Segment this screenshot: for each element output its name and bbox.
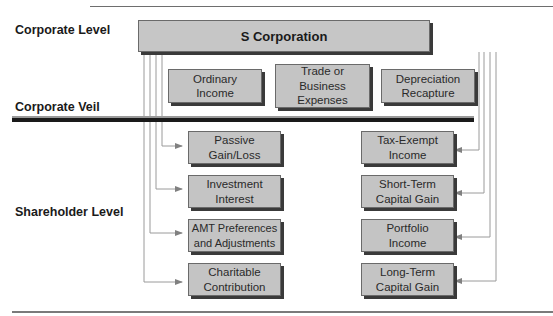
bottom-rule xyxy=(12,311,553,313)
depreciation-recapture-box: Depreciation Recapture xyxy=(381,69,475,103)
ordinary-income-box: Ordinary Income xyxy=(168,69,262,103)
trade-business-expenses-box: Trade or Business Expenses xyxy=(275,64,370,108)
amt-preferences-box: AMT Preferences and Adjustments xyxy=(188,219,281,252)
s-corporation-flow-diagram: Corporate Level Corporate Veil Sharehold… xyxy=(0,0,553,316)
short-term-capital-gain-box: Short-Term Capital Gain xyxy=(361,175,454,208)
portfolio-income-box: Portfolio Income xyxy=(361,219,454,252)
passive-gain-loss-box: Passive Gain/Loss xyxy=(188,131,281,164)
investment-interest-box: Investment Interest xyxy=(188,175,281,208)
corporate-veil-line xyxy=(12,118,474,122)
charitable-contribution-box: Charitable Contribution xyxy=(188,263,281,296)
s-corporation-label: S Corporation xyxy=(241,29,328,44)
long-term-capital-gain-box: Long-Term Capital Gain xyxy=(361,263,454,296)
tax-exempt-income-box: Tax-Exempt Income xyxy=(361,131,454,164)
s-corporation-box: S Corporation xyxy=(138,20,430,52)
